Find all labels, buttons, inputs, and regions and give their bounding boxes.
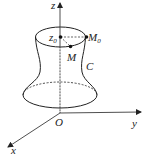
point-z0	[59, 35, 63, 39]
z-axis-label: z	[50, 0, 56, 11]
curve-C-label: C	[86, 60, 94, 72]
radius-z0-M	[61, 37, 71, 47]
z0-label: z0	[48, 31, 57, 45]
diagram-canvas: z z0 M0 M C O y x	[0, 0, 149, 155]
point-M	[69, 45, 73, 49]
y-axis-label: y	[131, 117, 137, 129]
origin-label: O	[55, 116, 63, 128]
surface-diagram: z z0 M0 M C O y x	[0, 0, 149, 155]
y-axis	[60, 112, 141, 113]
left-profile-curve	[23, 37, 40, 95]
x-axis	[8, 113, 60, 147]
x-axis-label: x	[10, 144, 16, 155]
M0-label: M0	[87, 31, 101, 45]
M-label: M	[66, 51, 77, 63]
